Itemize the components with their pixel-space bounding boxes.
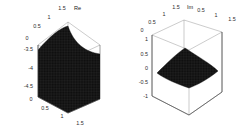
tick-z-1: -3.5 [24,46,33,52]
tick-z-2: -4 [28,65,33,71]
tick-z-r4: -0.5 [139,79,148,85]
tick-righttop-2: 1 [215,12,218,18]
axis-label-im: Im [187,4,194,10]
tick-lefttop-3: 0.5 [148,19,156,25]
tick-lefttop-1: 1.5 [172,4,180,10]
tick-lefttop-4: 0 [141,27,144,33]
surface-mesh-re [38,26,100,113]
axis-label-re: Re [74,5,81,11]
tick-bottom-3: 1 [61,113,64,119]
tick-z-r2: 0.5 [141,51,149,57]
tick-righttop-1: 0.5 [197,7,205,13]
tick-bottom-1: 0 [30,96,33,102]
tick-top-4: 0 [26,35,29,41]
tick-righttop-3: 1.5 [228,16,236,22]
tick-z-r5: -1 [143,93,148,99]
tick-z-3: -4.5 [24,83,33,89]
tick-top-3: 0.5 [33,23,41,29]
tick-top-1: 1.5 [58,5,66,11]
tick-bottom-4: 1.5 [76,120,84,126]
figure-canvas: 1.5 1 0.5 0 Re -3.5 -4 -4.5 0 0.5 1 1.5 [0,0,239,127]
tick-lefttop-2: 1 [163,11,166,17]
surface-plot-im: 1.5 1 0.5 0 Im 0.5 1 1.5 1 0.5 0 -0.5 -1 [119,0,239,127]
tick-bottom-2: 0.5 [41,105,49,111]
surface-mesh-im [157,48,218,88]
tick-top-2: 1 [48,14,51,20]
tick-z-r3: 0 [145,65,148,71]
tick-z-r1: 1 [145,36,148,42]
surface-plot-re: 1.5 1 0.5 0 Re -3.5 -4 -4.5 0 0.5 1 1.5 [0,0,119,127]
